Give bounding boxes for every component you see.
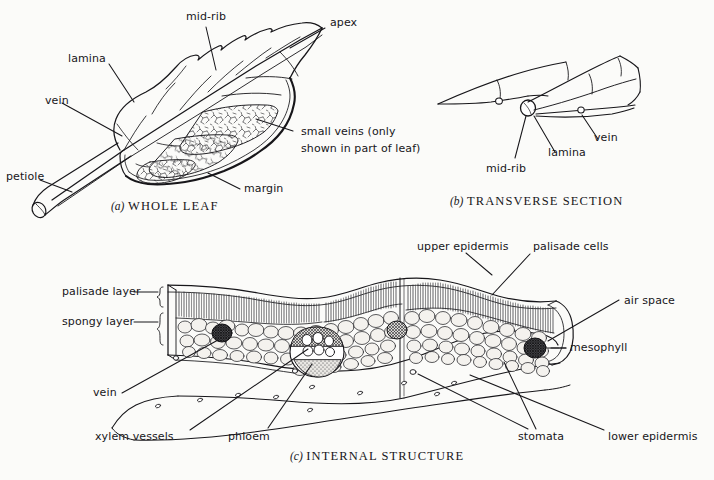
label-lower-epidermis: lower epidermis bbox=[608, 430, 697, 444]
caption-index-c: (c) bbox=[290, 450, 303, 462]
label-palisade-layer: palisade layer bbox=[62, 285, 141, 299]
label-apex-panel-a: apex bbox=[330, 16, 357, 30]
caption-panel-b: (b) TRANSVERSE SECTION bbox=[450, 194, 623, 209]
label-vein-panel-c: vein bbox=[93, 386, 117, 400]
label-phloem: phloem bbox=[228, 430, 270, 444]
transverse-section-drawing bbox=[438, 56, 640, 117]
label-air-space: air space bbox=[624, 294, 675, 308]
caption-index-b: (b) bbox=[450, 195, 463, 207]
label-palisade-cells: palisade cells bbox=[533, 240, 609, 254]
caption-panel-c: (c) INTERNAL STRUCTURE bbox=[290, 449, 464, 464]
label-midrib-panel-a: mid-rib bbox=[186, 10, 226, 24]
label-spongy-layer: spongy layer bbox=[62, 315, 134, 329]
label-xylem-vessels: xylem vessels bbox=[95, 430, 174, 444]
label-lamina-panel-a: lamina bbox=[68, 52, 106, 66]
label-mesophyll: mesophyll bbox=[570, 341, 627, 355]
label-small-veins-line2: shown in part of leaf) bbox=[301, 142, 421, 156]
caption-index-a: (a) bbox=[111, 200, 124, 212]
leaf-structure-figure: mid-rib apex lamina vein petiole small v… bbox=[0, 0, 714, 480]
label-lamina-panel-b: lamina bbox=[548, 146, 586, 160]
label-petiole-panel-a: petiole bbox=[6, 170, 44, 184]
caption-text-b: TRANSVERSE SECTION bbox=[467, 194, 623, 208]
label-margin-panel-a: margin bbox=[244, 182, 283, 196]
caption-text-c: INTERNAL STRUCTURE bbox=[306, 449, 464, 463]
caption-panel-a: (a) WHOLE LEAF bbox=[111, 199, 219, 214]
label-midrib-panel-b: mid-rib bbox=[486, 162, 526, 176]
caption-text-a: WHOLE LEAF bbox=[128, 199, 219, 213]
label-vein-panel-b: vein bbox=[594, 131, 618, 145]
label-vein-panel-a: vein bbox=[45, 94, 69, 108]
internal-structure-drawing bbox=[112, 278, 573, 440]
label-stomata: stomata bbox=[518, 430, 564, 444]
label-upper-epidermis: upper epidermis bbox=[417, 240, 509, 254]
label-small-veins-line1: small veins (only bbox=[301, 125, 396, 139]
